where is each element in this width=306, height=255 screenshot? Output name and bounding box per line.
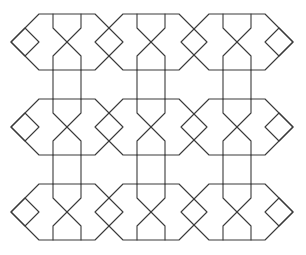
tile-cross-stroke [223, 184, 251, 240]
left-end-diamond [11, 113, 39, 141]
vertical-connectors [53, 70, 251, 184]
tile-cross-stroke [53, 184, 81, 240]
right-end-diamond [265, 28, 293, 56]
hexagon-tiles [11, 14, 293, 240]
right-end-diamond [265, 198, 293, 226]
tile-cross-stroke [137, 99, 165, 155]
tile-cross-stroke [53, 14, 81, 70]
tile-cross-stroke [53, 99, 81, 155]
geometric-pattern [0, 0, 306, 255]
tile-cross-stroke [223, 14, 251, 70]
tile-cross-stroke [223, 99, 251, 155]
left-end-diamond [11, 198, 39, 226]
right-end-diamond [265, 113, 293, 141]
left-end-diamond [11, 28, 39, 56]
tile-cross-stroke [137, 184, 165, 240]
tile-cross-stroke [137, 14, 165, 70]
pattern-canvas [0, 0, 306, 255]
